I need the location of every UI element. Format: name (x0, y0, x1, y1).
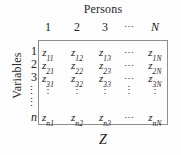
matrix-cell-z32: z32 (62, 73, 92, 84)
matrix-symbol-caption: Z (38, 132, 168, 147)
matrix-cell-znN: znN (140, 112, 170, 123)
matrix-cell-zn2: zn2 (62, 112, 92, 123)
data-matrix-figure: Persons 1 2 3 ⋯ N Variables 1 2 3 ⋮ ⋮ n … (0, 0, 181, 155)
matrix-cell-z11: z11 (33, 47, 63, 58)
matrix-cell-z22: z22 (62, 60, 92, 71)
column-header-3: 3 (94, 20, 116, 34)
matrix-cell-z1N: z1N (140, 47, 170, 58)
matrix-cell-z2N: z2N (140, 60, 170, 71)
matrix-cell-z31: z31 (33, 73, 63, 84)
row-header-ellipsis-lower: ⋮ (24, 96, 37, 108)
column-header-ellipsis: ⋯ (118, 20, 140, 34)
matrix-cell-z21: z21 (33, 60, 63, 71)
matrix-cell-ellipsis-r4c2: ⋮ (62, 85, 92, 95)
column-header-2: 2 (66, 20, 88, 34)
rows-dimension-title: Variables (11, 38, 24, 114)
column-header-n: N (144, 20, 166, 34)
matrix-cell-z3N: z3N (140, 73, 170, 84)
matrix-cell-zn1: zn1 (33, 112, 63, 123)
columns-dimension-title: Persons (38, 3, 168, 16)
matrix-cell-ellipsis-r4c5: ⋮ (140, 85, 170, 95)
column-header-1: 1 (37, 20, 59, 34)
matrix-cell-ellipsis-r4c1: ⋮ (33, 85, 63, 95)
matrix-cell-z12: z12 (62, 47, 92, 58)
